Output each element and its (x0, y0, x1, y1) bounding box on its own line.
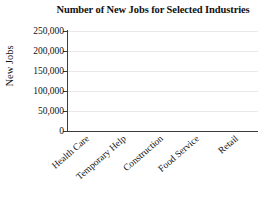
gridline-250000 (68, 31, 258, 32)
gridline-50000 (68, 111, 258, 112)
x-tick-label-temporary-help: Temporary Help (55, 133, 129, 199)
x-axis-line (67, 131, 258, 132)
x-tick-label-construction: Construction (98, 133, 166, 194)
gridline-150000 (68, 71, 258, 72)
chart-title: Number of New Jobs for Selected Industri… (46, 3, 260, 16)
x-tick-label-retail: Retail (200, 133, 240, 170)
chart-figure: Number of New Jobs for Selected Industri… (0, 0, 265, 202)
plot-area (68, 31, 258, 131)
y-tick-label-150000: 150,000 (0, 66, 64, 76)
y-tick-label-50000: 50,000 (0, 106, 64, 116)
y-tick-label-250000: 250,000 (0, 26, 64, 36)
gridline-200000 (68, 51, 258, 52)
y-tick-label-200000: 200,000 (0, 46, 64, 56)
y-axis-line (67, 30, 68, 132)
y-tick-label-100000: 100,000 (0, 86, 64, 96)
y-tick-label-0: 0 (0, 126, 64, 136)
gridline-100000 (68, 91, 258, 92)
x-tick-label-food-service: Food Service (136, 133, 202, 192)
